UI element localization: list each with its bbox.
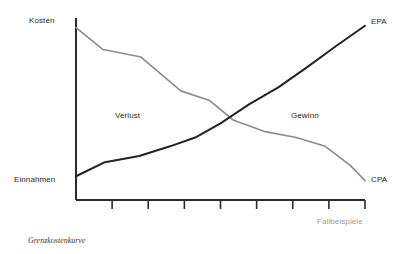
- chart-plot-area: [0, 0, 410, 254]
- region-label-profit: Gewinn: [291, 111, 319, 121]
- figure-caption: Grenzkostenkurve: [28, 236, 85, 245]
- x-axis-label: Fallbeispiele: [317, 217, 363, 227]
- figure-canvas: Kosten Einnahmen Verlust Gewinn EPA CPA …: [0, 0, 410, 254]
- y-axis-top-label: Kosten: [29, 16, 55, 26]
- y-axis-bottom-label: Einnahmen: [14, 175, 55, 185]
- series-label-epa: EPA: [371, 17, 387, 27]
- region-label-loss: Verlust: [115, 111, 140, 121]
- series-group: [76, 26, 365, 181]
- series-label-cpa: CPA: [371, 175, 387, 185]
- series-line-epa: [76, 26, 365, 176]
- series-line-cpa: [76, 28, 365, 181]
